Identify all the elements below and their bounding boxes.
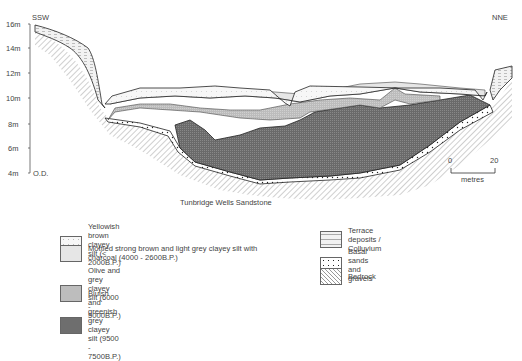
tick-14m: 14m (6, 44, 21, 53)
scale-end: 20 (490, 156, 498, 165)
legend-item-bluish: Bluish and greenish grey clayey silt (95… (60, 289, 121, 361)
direction-ssw: SSW (32, 13, 50, 22)
tick-4m: 4m (8, 169, 18, 178)
direction-nne: NNE (492, 13, 508, 22)
legend-item-bedrock: Bedrock (320, 268, 376, 285)
swatch-dark-grey (60, 317, 82, 334)
tick-10m: 10m (6, 94, 21, 103)
swatch-light-grey (60, 245, 82, 262)
tick-6m: 6m (8, 144, 18, 153)
tick-16m: 16m (6, 20, 21, 29)
tick-8m: 8m (8, 120, 18, 129)
datum-label: O.D. (33, 169, 48, 178)
swatch-diagonal-hatch (320, 268, 342, 285)
tick-12m: 12m (6, 69, 21, 78)
legend-item-mottled: Mottled strong brown and light grey clay… (60, 244, 280, 262)
bedrock-label: Tunbridge Wells Sandstone (180, 198, 272, 207)
scale-unit: metres (461, 175, 484, 184)
swatch-dashes (320, 231, 342, 248)
scale-start: 0 (448, 156, 452, 165)
